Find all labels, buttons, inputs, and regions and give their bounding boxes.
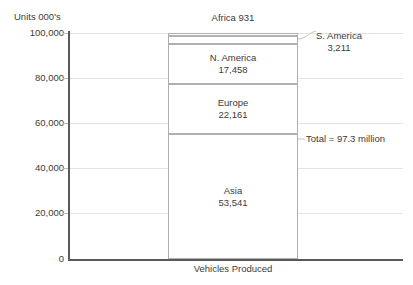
y-axis-line (68, 31, 70, 260)
y-tick-40000: 40,000 (0, 162, 64, 174)
stacked-bar-chart: Units 000's 100,000 80,000 60,000 40,000… (0, 0, 413, 285)
bar-segment-s-america[interactable] (168, 36, 298, 44)
y-tick-mark-60000 (63, 123, 68, 124)
y-tick-label: 0 (0, 253, 64, 264)
bar-segment-value: 22,161 (218, 109, 247, 121)
africa-callout-label: Africa 931 (168, 12, 298, 24)
x-axis-category-label: Vehicles Produced (118, 263, 348, 274)
bar-segment-value: 17,458 (218, 64, 247, 76)
y-tick-label: 60,000 (0, 117, 64, 128)
x-axis-line (68, 259, 403, 261)
bar-segment-label: Asia (224, 185, 242, 197)
y-tick-100000: 100,000 (0, 27, 64, 39)
y-tick-label: 20,000 (0, 207, 64, 218)
y-tick-80000: 80,000 (0, 72, 64, 84)
y-tick-label: 40,000 (0, 162, 64, 173)
y-tick-label: 100,000 (0, 27, 64, 38)
bar-segment-label: Europe (218, 97, 249, 109)
y-tick-mark-80000 (63, 78, 68, 79)
bar-segment-n-america[interactable]: N. America 17,458 (168, 44, 298, 84)
samerica-callout-value: 3,211 (316, 42, 362, 54)
bar-segment-asia[interactable]: Asia 53,541 (168, 134, 298, 259)
bar-segment-label: N. America (210, 52, 256, 64)
samerica-callout: S. America 3,211 (316, 30, 362, 54)
y-tick-60000: 60,000 (0, 117, 64, 129)
y-tick-mark-100000 (63, 33, 68, 34)
bar-vehicles-produced[interactable]: N. America 17,458 Europe 22,161 Asia 53,… (168, 33, 298, 259)
y-tick-20000: 20,000 (0, 207, 64, 219)
bar-segment-europe[interactable]: Europe 22,161 (168, 84, 298, 134)
bar-segment-value: 53,541 (218, 197, 247, 209)
y-tick-mark-20000 (63, 213, 68, 214)
y-tick-mark-40000 (63, 168, 68, 169)
y-tick-label: 80,000 (0, 72, 64, 83)
samerica-callout-label: S. America (316, 30, 362, 42)
total-annotation-label: Total = 97.3 million (306, 133, 385, 145)
y-axis-title: Units 000's (14, 11, 61, 22)
y-tick-0: 0 (0, 253, 64, 265)
